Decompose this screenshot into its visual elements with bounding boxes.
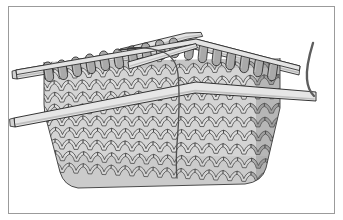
knitting-illustration: Grayscale line drawing of a knitted swat… (0, 0, 343, 220)
illustration-svg (0, 0, 343, 220)
illustration-canvas (0, 0, 343, 220)
